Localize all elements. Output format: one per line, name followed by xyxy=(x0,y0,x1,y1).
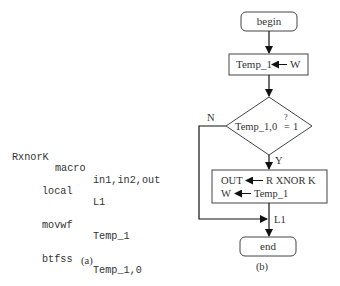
flowchart: begin Temp_1 W Temp_1,0 ? = 1 N Y OUT R … xyxy=(0,0,340,286)
process-w-target: W xyxy=(221,188,231,199)
decision-equals: = xyxy=(284,121,290,132)
begin-label: begin xyxy=(257,15,282,27)
process-out-target: OUT xyxy=(221,175,243,186)
assign-box: Temp_1 W xyxy=(229,54,308,75)
begin-terminal: begin xyxy=(241,12,297,31)
assign-target: Temp_1 xyxy=(236,58,272,70)
caption-b: (b) xyxy=(256,261,269,273)
decision-condition: Temp_1,0 xyxy=(235,121,277,132)
process-w-source: Temp_1 xyxy=(254,188,288,199)
decision-value: 1 xyxy=(293,121,298,132)
end-label: end xyxy=(260,240,276,252)
process-out-source: R XNOR K xyxy=(266,175,316,186)
yes-branch-label: Y xyxy=(275,155,283,166)
decision-diamond: Temp_1,0 ? = 1 xyxy=(226,97,312,155)
no-branch-label: N xyxy=(207,112,215,123)
end-terminal: end xyxy=(240,237,296,256)
assign-source: W xyxy=(290,58,301,70)
join-label: L1 xyxy=(274,214,286,225)
process-box: OUT R XNOR K W Temp_1 xyxy=(212,170,327,203)
